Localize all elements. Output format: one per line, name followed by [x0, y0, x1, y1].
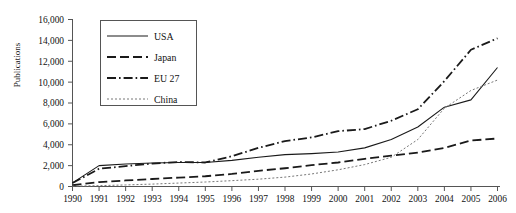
y-tick-label: 4,000	[43, 140, 64, 150]
x-tick-label: 2004	[435, 194, 454, 204]
legend-label-japan: Japan	[154, 52, 176, 63]
x-tick-label: 1995	[196, 194, 215, 204]
y-tick-label: 6,000	[43, 119, 64, 129]
x-tick-label: 2000	[329, 194, 348, 204]
x-tick-label: 1990	[63, 194, 82, 204]
y-tick-label: 16,000	[38, 15, 64, 25]
x-tick-label: 2005	[462, 194, 481, 204]
x-tick-label: 2002	[382, 194, 401, 204]
y-tick-label: 12,000	[38, 57, 64, 67]
x-tick-label: 1994	[169, 194, 188, 204]
y-tick-label: 8,000	[43, 98, 64, 108]
publications-line-chart: Publications 02,0004,0006,0008,00010,000…	[0, 0, 516, 213]
chart-canvas: 02,0004,0006,0008,00010,00012,00014,0001…	[0, 0, 516, 213]
y-tick-label: 14,000	[38, 36, 64, 46]
legend-label-usa: USA	[154, 31, 174, 42]
series-line-japan	[73, 138, 498, 185]
x-tick-label: 1998	[276, 194, 295, 204]
y-tick-label: 10,000	[38, 78, 64, 88]
x-tick-label: 2003	[408, 194, 427, 204]
legend-label-china: China	[154, 94, 178, 105]
legend-box	[101, 21, 197, 106]
x-tick-label: 1997	[249, 194, 268, 204]
x-tick-label: 1993	[143, 194, 162, 204]
x-tick-label: 2001	[355, 194, 374, 204]
x-tick-label: 1991	[90, 194, 109, 204]
x-tick-label: 1996	[223, 194, 242, 204]
x-axis-ticks: 1990199119921993199419951996199719981999…	[63, 187, 507, 205]
legend-label-eu-27: EU 27	[154, 73, 179, 84]
y-axis-ticks: 02,0004,0006,0008,00010,00012,00014,0001…	[38, 15, 72, 192]
y-tick-label: 0	[59, 182, 64, 192]
x-tick-label: 1999	[302, 194, 321, 204]
y-tick-label: 2,000	[43, 161, 64, 171]
x-tick-label: 2006	[488, 194, 507, 204]
x-tick-label: 1992	[116, 194, 135, 204]
